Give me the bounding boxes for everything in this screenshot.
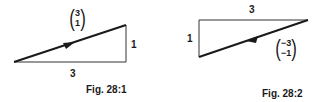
column-vector-28-1: ( 3 1 ): [68, 6, 87, 30]
horizontal-label-28-1: 3: [70, 69, 76, 79]
vertical-label-28-2: 1: [187, 34, 193, 44]
right-paren: ): [80, 6, 86, 30]
caption-28-2: Fig. 28:2: [262, 89, 303, 99]
right-paren: ): [291, 36, 297, 60]
vertical-label-28-1: 1: [131, 40, 137, 50]
horizontal-label-28-2: 3: [249, 5, 255, 15]
caption-28-1: Fig. 28:1: [86, 85, 127, 95]
arrowhead-icon: [63, 42, 75, 49]
left-paren: (: [275, 36, 281, 60]
vector-x: −3: [281, 38, 291, 48]
column-vector-28-2: ( −3 −1 ): [274, 36, 298, 60]
left-paren: (: [69, 6, 75, 30]
diagram-canvas: [0, 0, 319, 102]
vector-y: −1: [281, 48, 291, 58]
